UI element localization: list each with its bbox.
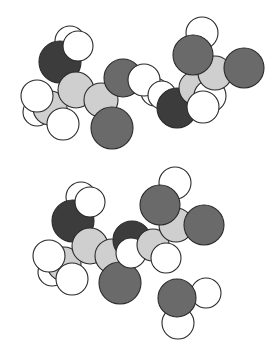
molecule-diagram	[0, 0, 274, 358]
water-molecule	[158, 278, 221, 339]
hydrogen-atom	[56, 263, 88, 295]
oxygen-atom	[158, 279, 196, 317]
hydrogen-atom	[63, 31, 93, 61]
oxygen-atom	[224, 48, 264, 88]
oxygen-atom	[91, 107, 133, 149]
hydrogen-atom	[151, 243, 181, 273]
hydrogen-atom	[21, 80, 53, 112]
oxygen-atom	[173, 35, 213, 75]
hydrogen-atom	[47, 108, 79, 140]
hydrogen-atom	[187, 91, 219, 123]
oxygen-atom	[140, 185, 180, 225]
oxygen-atom	[184, 205, 224, 245]
oxygen-atom	[99, 262, 141, 304]
hydrogen-atom	[75, 187, 105, 217]
hydrogen-atom	[33, 240, 65, 272]
top-molecule	[21, 17, 264, 149]
